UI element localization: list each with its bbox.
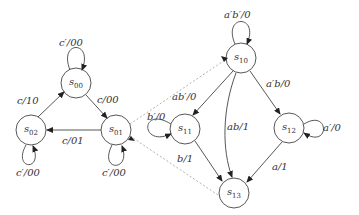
state-label-s02: s02 — [24, 124, 38, 137]
state-label-s10: s10 — [234, 52, 248, 65]
edge-label-s11-loop: b′/0 — [147, 112, 165, 122]
state-label-s00: s00 — [69, 77, 83, 90]
state-label-s11: s11 — [178, 123, 192, 136]
edge-label-s12-s13: a/1 — [272, 162, 288, 172]
edge-label-s02-s00: c/10 — [17, 96, 39, 106]
edge-label-s02-loop: c′/00 — [16, 168, 40, 178]
edge-label-s00-s01: c/00 — [97, 95, 119, 105]
edge-label-s12-loop: a′/0 — [323, 123, 341, 133]
diagram-edges — [0, 0, 359, 215]
edge-label-s10-s13: ab/1 — [227, 122, 249, 132]
edge-label-s10-s12: a′b/0 — [266, 79, 290, 89]
state-label-s01: s01 — [109, 124, 123, 137]
edge-label-s01-loop: c′/00 — [102, 168, 126, 178]
edge-label-s00-loop: c′/00 — [59, 38, 83, 48]
state-label-s13: s13 — [227, 187, 241, 200]
edge-label-s10-s11: ab′/0 — [172, 92, 196, 102]
edge-label-s10-loop: a′b′/0 — [224, 10, 251, 20]
state-label-s12: s12 — [282, 122, 296, 135]
edge-label-s11-s13: b/1 — [177, 154, 193, 164]
state-diagram: s00 s01 s02 s10 s11 s12 s13 c′/00 c/00 c… — [0, 0, 359, 215]
edge-label-s01-s02: c/01 — [62, 136, 84, 146]
